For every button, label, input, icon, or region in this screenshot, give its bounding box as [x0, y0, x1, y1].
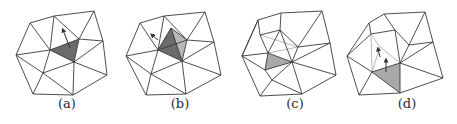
mesh-edge — [369, 23, 371, 34]
mesh-edge — [73, 62, 74, 95]
mesh-edge — [347, 56, 359, 95]
mesh-edge — [182, 61, 221, 75]
mesh-edge — [33, 94, 73, 95]
mesh-edge — [425, 12, 433, 42]
mesh-edge — [400, 78, 443, 93]
hidden-edge — [380, 47, 400, 63]
mesh-edge — [272, 80, 302, 94]
shaded-face — [265, 53, 292, 70]
caption-d: (d) — [387, 96, 427, 111]
mesh-edge — [242, 53, 268, 56]
figure-mesh-refinement: (a) (b) (c) (d) — [0, 0, 457, 124]
mesh-edge — [298, 11, 322, 47]
mesh-edge — [409, 12, 425, 45]
mesh-edge — [384, 14, 395, 30]
mesh-edge — [292, 43, 330, 62]
mesh-edge — [280, 30, 292, 62]
mesh-edge — [79, 39, 103, 41]
mesh-edge — [146, 94, 186, 95]
mesh-edge — [151, 61, 182, 74]
mesh-edge — [347, 23, 369, 56]
panel-b-mesh — [126, 12, 221, 95]
mesh-edge — [214, 42, 221, 75]
mesh-edge — [151, 74, 186, 94]
mesh-edge — [140, 23, 158, 50]
mesh-edge — [16, 23, 30, 55]
mesh-edge — [103, 41, 107, 75]
mesh-edge — [126, 56, 151, 74]
mesh-edge — [54, 11, 94, 16]
mesh-edge — [302, 75, 336, 94]
hidden-edge — [371, 34, 372, 72]
mesh-edge — [33, 73, 43, 94]
hidden-edge — [371, 34, 380, 47]
mesh-edge — [146, 74, 151, 95]
mesh-edge — [292, 62, 336, 75]
mesh-edge — [187, 12, 205, 40]
mesh-edge — [400, 63, 443, 78]
caption-b: (b) — [160, 96, 200, 111]
mesh-edge — [43, 73, 73, 95]
mesh-edge — [433, 42, 443, 78]
mesh-edge — [292, 62, 302, 94]
mesh-edge — [94, 11, 103, 41]
normal-arrow-icon — [152, 35, 158, 40]
caption-c: (c) — [275, 96, 315, 111]
mesh-edge — [73, 75, 107, 95]
mesh-edge — [205, 12, 214, 42]
mesh-edge — [50, 16, 54, 50]
panel-c-mesh — [242, 11, 336, 96]
hidden-edge — [268, 47, 298, 53]
mesh-edge — [186, 75, 221, 94]
mesh-edge — [140, 16, 164, 23]
mesh-edge — [265, 70, 272, 80]
caption-a: (a) — [47, 96, 87, 111]
mesh-edge — [258, 20, 260, 35]
mesh-edge — [30, 16, 54, 23]
mesh-edge — [126, 56, 146, 95]
mesh-edge — [74, 41, 103, 62]
mesh-edge — [369, 14, 384, 23]
mesh-edge — [74, 62, 107, 75]
mesh-edge — [281, 11, 322, 13]
mesh-edge — [260, 35, 268, 53]
mesh-edge — [43, 50, 50, 73]
mesh-edge — [260, 80, 272, 96]
mesh-edge — [151, 50, 158, 74]
mesh-edge — [242, 20, 258, 56]
mesh-edge — [260, 30, 280, 35]
mesh-edge — [79, 11, 94, 39]
mesh-edge — [187, 40, 214, 42]
mesh-edge — [126, 23, 140, 56]
mesh-edge — [182, 61, 186, 94]
mesh-edge — [359, 72, 372, 95]
mesh-edge — [164, 12, 205, 16]
panel-a-mesh — [16, 11, 107, 95]
mesh-edge — [182, 42, 214, 61]
mesh-edge — [268, 30, 280, 53]
mesh-edge — [30, 23, 50, 50]
mesh-edge — [54, 16, 79, 39]
mesh-edge — [330, 43, 336, 75]
mesh-edge — [359, 93, 400, 95]
mesh-edge — [322, 11, 330, 43]
mesh-edge — [126, 50, 158, 56]
mesh-edge — [280, 13, 281, 30]
panel-d-mesh — [347, 12, 443, 95]
mesh-edge — [258, 13, 281, 20]
mesh-edge — [43, 62, 74, 73]
mesh-edge — [16, 50, 50, 55]
mesh-edge — [384, 12, 425, 14]
mesh-edge — [371, 30, 395, 34]
